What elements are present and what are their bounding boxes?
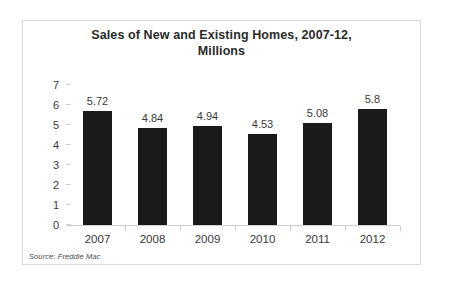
y-axis-tick-row: 7: [37, 77, 71, 93]
bar-value-label: 4.53: [235, 118, 290, 131]
x-axis-tick: [400, 226, 401, 231]
y-axis-label: 0: [53, 217, 59, 233]
bar[interactable]: [303, 123, 332, 225]
x-axis-tick: [345, 226, 346, 231]
bar[interactable]: [138, 128, 167, 225]
x-axis-label: 2011: [290, 232, 345, 247]
x-axis-label: 2009: [180, 232, 235, 247]
y-axis-label: 2: [53, 177, 59, 193]
chart-title-line-1: Sales of New and Existing Homes, 2007-12…: [23, 27, 420, 43]
x-axis-tick: [290, 226, 291, 231]
chart-title-line-2: Millions: [23, 43, 420, 59]
bar-value-label: 5.72: [70, 95, 125, 108]
x-axis-label: 2010: [235, 232, 290, 247]
bar-slot: 4.94: [180, 85, 235, 225]
y-axis-tick-row: 2: [37, 177, 71, 193]
bar[interactable]: [83, 111, 112, 225]
bar-slot: 4.84: [125, 85, 180, 225]
y-axis-label: 6: [53, 97, 59, 113]
chart-title: Sales of New and Existing Homes, 2007-12…: [23, 27, 420, 59]
x-axis-tick: [235, 226, 236, 231]
chart-frame: Sales of New and Existing Homes, 2007-12…: [22, 20, 421, 265]
bar-slot: 5.08: [290, 85, 345, 225]
y-axis-tick-row: 6: [37, 97, 71, 113]
bar-value-label: 4.94: [180, 110, 235, 123]
y-axis-label: 7: [53, 77, 59, 93]
plot-area: 5.724.844.944.535.085.8: [70, 85, 400, 225]
bar-slot: 4.53: [235, 85, 290, 225]
x-axis-line: [66, 225, 400, 226]
bar-value-label: 4.84: [125, 112, 180, 125]
y-axis-tick-row: 4: [37, 137, 71, 153]
x-axis-label: 2007: [70, 232, 125, 247]
x-axis-label: 2008: [125, 232, 180, 247]
x-axis-label: 2012: [345, 232, 400, 247]
y-axis-tick-row: 1: [37, 197, 71, 213]
bar[interactable]: [358, 109, 387, 225]
y-axis-tick-row: 3: [37, 157, 71, 173]
y-axis-label: 1: [53, 197, 59, 213]
y-axis-tick-row: 5: [37, 117, 71, 133]
y-axis-label: 5: [53, 117, 59, 133]
bar[interactable]: [193, 126, 222, 225]
bar-slot: 5.8: [345, 85, 400, 225]
y-axis-label: 3: [53, 157, 59, 173]
x-axis-tick: [180, 226, 181, 231]
bar-value-label: 5.08: [290, 107, 345, 120]
x-axis-tick: [125, 226, 126, 231]
y-axis: 01234567: [37, 77, 71, 233]
bar[interactable]: [248, 134, 277, 225]
y-axis-label: 4: [53, 137, 59, 153]
bar-slot: 5.72: [70, 85, 125, 225]
source-note: Source: Freddie Mac: [29, 252, 101, 261]
bar-value-label: 5.8: [345, 93, 400, 106]
